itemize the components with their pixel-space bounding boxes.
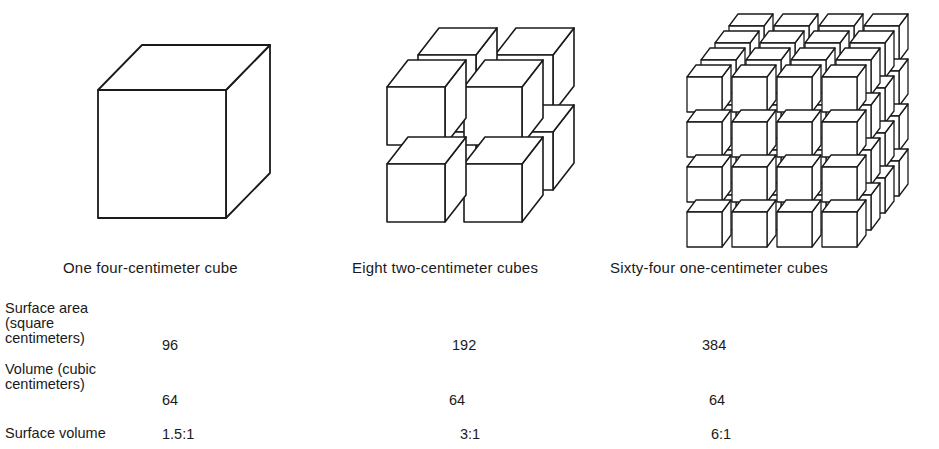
ratio-sixty-four-cubes: 6:1 bbox=[711, 426, 731, 442]
label-line: centimeters) bbox=[5, 331, 88, 346]
row-label-volume: Volume (cubic centimeters) bbox=[5, 362, 96, 392]
label-line: Volume (cubic bbox=[5, 362, 96, 377]
ratio-eight-cubes: 3:1 bbox=[460, 426, 480, 442]
label-line: centimeters) bbox=[5, 377, 96, 392]
volume-sixty-four-cubes: 64 bbox=[709, 392, 725, 408]
label-line: Surface volume bbox=[5, 426, 106, 441]
surface-area-eight-cubes: 192 bbox=[452, 337, 476, 353]
surface-area-one-cube: 96 bbox=[162, 337, 178, 353]
row-label-surface-area: Surface area (square centimeters) bbox=[5, 301, 88, 346]
volume-eight-cubes: 64 bbox=[449, 392, 465, 408]
caption-one-cube: One four-centimeter cube bbox=[63, 259, 238, 276]
cubes-illustration bbox=[0, 0, 939, 260]
ratio-one-cube: 1.5:1 bbox=[162, 426, 194, 442]
row-label-surface-volume: Surface volume bbox=[5, 426, 106, 441]
single-large-cube-icon bbox=[98, 45, 270, 218]
sixty-four-small-cubes-icon bbox=[687, 14, 908, 247]
caption-eight-cubes: Eight two-centimeter cubes bbox=[352, 259, 538, 276]
eight-medium-cubes-icon bbox=[387, 28, 574, 222]
volume-one-cube: 64 bbox=[162, 392, 178, 408]
label-line: Surface area bbox=[5, 301, 88, 316]
label-line: (square bbox=[5, 316, 88, 331]
surface-area-sixty-four-cubes: 384 bbox=[702, 337, 726, 353]
caption-sixty-four-cubes: Sixty-four one-centimeter cubes bbox=[610, 259, 828, 276]
